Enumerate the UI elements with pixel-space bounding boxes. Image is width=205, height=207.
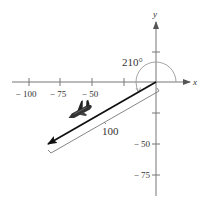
vector-diagram: − 100 − 75 − 50 x − 50 − 75 y 210° 100	[0, 0, 205, 207]
y-tick-label: − 50	[134, 139, 151, 149]
x-tick-label: − 50	[82, 89, 99, 99]
y-axis: − 50 − 75 y	[134, 9, 160, 196]
x-axis: − 100 − 75 − 50 x	[12, 77, 197, 99]
angle-label: 210°	[122, 56, 143, 68]
x-tick-label: − 100	[16, 89, 37, 99]
x-axis-label: x	[192, 77, 197, 87]
magnitude-label: 100	[102, 125, 119, 137]
x-tick-label: − 75	[50, 89, 67, 99]
y-tick-label: − 75	[134, 170, 151, 180]
y-axis-label: y	[152, 9, 157, 19]
